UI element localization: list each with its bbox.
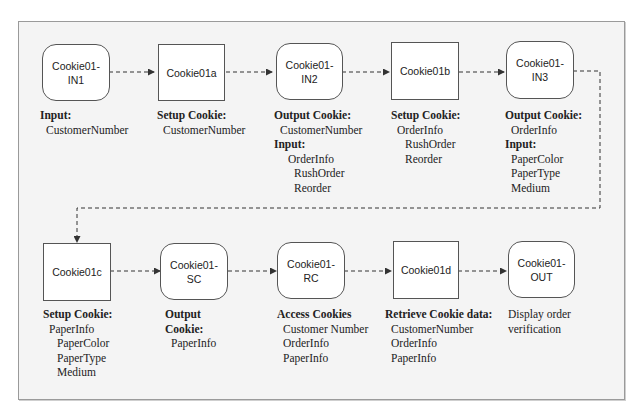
annotation-c01c: Setup Cookie: PaperInfo PaperColor Paper… (43, 307, 112, 380)
annotation-item: PaperInfo (43, 322, 112, 337)
annotation-item: PaperInfo (385, 351, 492, 366)
annotation-item: PaperInfo (165, 336, 216, 351)
annotation-item: OrderInfo (391, 123, 460, 138)
node-label: IN3 (532, 71, 548, 83)
node-cookie01a: Cookie01a (158, 44, 225, 101)
node-label: IN2 (301, 73, 317, 85)
annotation-item: Customer Number (277, 322, 368, 337)
annotation-heading: Output Cookie: (274, 108, 362, 123)
node-cookie01-in1: Cookie01-IN1 (42, 44, 110, 101)
annotation-heading: Output (165, 307, 216, 322)
annotation-heading: Setup Cookie: (43, 307, 112, 322)
annotation-out: Display order verification (508, 307, 571, 336)
node-label: Cookie01a (166, 66, 216, 80)
annotation-heading: Cookie: (165, 322, 216, 337)
annotation-heading: Input: (505, 137, 582, 152)
annotation-subitem: PaperColor (43, 336, 112, 351)
annotation-item: OrderInfo (385, 336, 492, 351)
annotation-c01b: Setup Cookie: OrderInfo RushOrder Reorde… (391, 108, 460, 166)
annotation-in3: Output Cookie: OrderInfo Input: PaperCol… (505, 108, 582, 195)
annotation-subitem: Reorder (391, 152, 460, 167)
annotation-text: verification (508, 322, 571, 337)
annotation-sc: Output Cookie: PaperInfo (165, 307, 216, 351)
annotation-item: CustomerNumber (274, 123, 362, 138)
annotation-rc: Access Cookies Customer Number OrderInfo… (277, 307, 368, 365)
annotation-item: Medium (505, 181, 582, 196)
node-cookie01-in3: Cookie01-IN3 (506, 41, 574, 99)
annotation-subitem: Medium (43, 365, 112, 380)
node-label: Cookie01b (400, 64, 450, 78)
node-label: Cookie01- (286, 59, 334, 71)
annotation-item: OrderInfo (505, 123, 582, 138)
annotation-heading: Setup Cookie: (391, 108, 460, 123)
node-label: Cookie01d (401, 263, 451, 277)
annotation-item: CustomerNumber (385, 322, 492, 337)
annotation-c01a: Setup Cookie: CustomerNumber (157, 108, 245, 137)
annotation-in2: Output Cookie: CustomerNumber Input: Ord… (274, 108, 362, 195)
annotation-heading: Output Cookie: (505, 108, 582, 123)
node-label: Cookie01- (518, 257, 566, 269)
annotation-heading: Access Cookies (277, 307, 368, 322)
annotation-heading: Retrieve Cookie data: (385, 307, 492, 322)
annotation-item: PaperColor (505, 152, 582, 167)
annotation-item: CustomerNumber (157, 123, 245, 138)
node-cookie01-out: Cookie01-OUT (508, 241, 575, 298)
annotation-heading: Input: (40, 108, 128, 123)
node-cookie01-in2: Cookie01-IN2 (276, 43, 343, 100)
annotation-item: OrderInfo (277, 336, 368, 351)
node-label: SC (187, 273, 202, 285)
annotation-c01d: Retrieve Cookie data: CustomerNumber Ord… (385, 307, 492, 365)
node-label: Cookie01c (52, 265, 102, 279)
annotation-item: OrderInfo (274, 152, 362, 167)
node-label: RC (303, 272, 318, 284)
annotation-subitem: Reorder (274, 181, 362, 196)
annotation-in1: Input: CustomerNumber (40, 108, 128, 137)
node-cookie01d: Cookie01d (393, 241, 459, 299)
node-label: Cookie01- (170, 259, 218, 271)
annotation-item: PaperInfo (277, 351, 368, 366)
annotation-heading: Input: (274, 137, 362, 152)
node-label: IN1 (68, 74, 84, 86)
node-cookie01-sc: Cookie01-SC (160, 243, 228, 300)
annotation-subitem: RushOrder (274, 166, 362, 181)
annotation-item: PaperType (505, 166, 582, 181)
node-label: Cookie01- (52, 60, 100, 72)
annotation-heading: Setup Cookie: (157, 108, 245, 123)
annotation-text: Display order (508, 307, 571, 322)
node-label: Cookie01- (287, 258, 335, 270)
node-cookie01-rc: Cookie01-RC (277, 242, 345, 299)
annotation-subitem: PaperType (43, 351, 112, 366)
node-cookie01c: Cookie01c (43, 243, 111, 301)
node-cookie01b: Cookie01b (391, 42, 459, 100)
annotation-subitem: RushOrder (391, 137, 460, 152)
node-label: Cookie01- (516, 57, 564, 69)
node-label: OUT (530, 271, 552, 283)
annotation-item: CustomerNumber (40, 123, 128, 138)
